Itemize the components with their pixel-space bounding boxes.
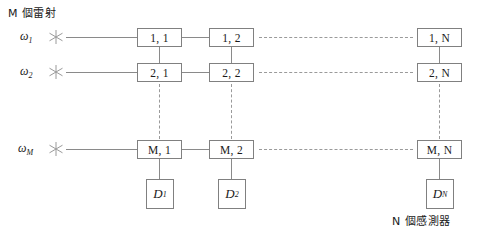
detector-link-N <box>439 159 440 179</box>
node-box-M-2[interactable]: M, 2 <box>209 140 254 159</box>
detector-symbol-2: D <box>225 186 234 202</box>
node-ellipsis-col-N <box>439 84 440 139</box>
node-link-c2-r1-r2 <box>231 47 232 63</box>
laser-star-icon <box>48 64 64 80</box>
node-ellipsis-row-1 <box>259 37 413 38</box>
detector-subscript-1: 1 <box>163 190 167 199</box>
sensors-group-label: N 個感測器 <box>392 212 451 228</box>
node-link-c1-r1-r2 <box>159 47 160 63</box>
node-ellipsis-row-M <box>259 149 413 150</box>
node-box-1-2[interactable]: 1, 2 <box>209 28 254 47</box>
diagram-canvas: M 個雷射 ω1 1, 1 1, 2 1, N ω2 2, 1 2, 2 2, … <box>0 0 477 234</box>
laser-star-icon <box>48 29 64 45</box>
laser-beam-line-M <box>66 149 137 150</box>
laser-label-2: ω2 <box>20 64 32 80</box>
laser-beam-line-1 <box>66 37 137 38</box>
node-box-1-1[interactable]: 1, 1 <box>137 28 182 47</box>
detector-link-1 <box>159 159 160 179</box>
laser-label-1: ω1 <box>20 29 32 45</box>
laser-subscript-2: 2 <box>28 71 32 80</box>
node-box-M-1[interactable]: M, 1 <box>137 140 182 159</box>
detector-subscript-N: N <box>442 190 447 199</box>
node-box-2-2[interactable]: 2, 2 <box>209 63 254 82</box>
lasers-group-label: M 個雷射 <box>8 4 57 20</box>
node-box-1-N[interactable]: 1, N <box>417 28 462 47</box>
node-box-2-N[interactable]: 2, N <box>417 63 462 82</box>
laser-subscript-M: M <box>26 148 33 157</box>
laser-label-M: ωM <box>18 141 33 157</box>
node-box-M-N[interactable]: M, N <box>417 140 462 159</box>
node-box-2-1[interactable]: 2, 1 <box>137 63 182 82</box>
node-link-r2-c1-c2 <box>182 72 209 73</box>
node-ellipsis-col-1 <box>159 84 160 139</box>
laser-star-icon <box>48 141 64 157</box>
detector-symbol-N: D <box>433 186 442 202</box>
node-link-cN-r1-r2 <box>439 47 440 63</box>
detector-link-2 <box>231 159 232 179</box>
laser-beam-line-2 <box>66 72 137 73</box>
detector-box-N[interactable]: DN <box>426 179 454 209</box>
detector-subscript-2: 2 <box>235 190 239 199</box>
node-link-r1-c1-c2 <box>182 37 209 38</box>
detector-symbol-1: D <box>153 186 162 202</box>
detector-box-1[interactable]: D1 <box>146 179 174 209</box>
node-ellipsis-row-2 <box>259 72 413 73</box>
laser-subscript-1: 1 <box>28 36 32 45</box>
detector-box-2[interactable]: D2 <box>218 179 246 209</box>
node-ellipsis-col-2 <box>231 84 232 139</box>
node-link-rM-c1-c2 <box>182 149 209 150</box>
